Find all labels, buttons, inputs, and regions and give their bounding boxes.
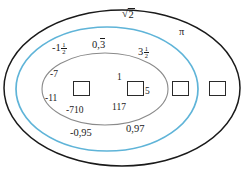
label-pi: π xyxy=(179,27,184,38)
answer-box-2[interactable] xyxy=(127,81,144,96)
outer-ellipse-real-numbers xyxy=(4,10,240,166)
fraction-denominator: 2 xyxy=(61,48,66,56)
mixed-whole-part: -1 xyxy=(52,43,61,54)
middle-ellipse-rational-numbers xyxy=(16,27,198,151)
label-negative-one-and-half: -1 1 2 xyxy=(52,41,67,56)
answer-box-1[interactable] xyxy=(73,81,90,96)
answer-box-3[interactable] xyxy=(172,81,189,96)
fraction-numerator: 1 xyxy=(61,42,66,49)
mixed-whole-part: 3 xyxy=(138,47,143,58)
label-sqrt-two: √2 xyxy=(122,8,135,20)
fraction-numerator: 1 xyxy=(144,46,149,53)
answer-box-4[interactable] xyxy=(209,81,226,96)
decimal-prefix: 0, xyxy=(92,39,100,50)
label-negative-eleven: -11 xyxy=(45,94,57,104)
label-negative-seven: -7 xyxy=(50,70,58,80)
label-negative-zero-point-95: -0,95 xyxy=(70,128,92,139)
label-negative-710: -710 xyxy=(66,106,83,116)
label-five: 5 xyxy=(145,87,150,97)
label-zero-point-three-repeating: 0,3 xyxy=(92,38,105,50)
label-one: 1 xyxy=(117,73,122,83)
label-three-and-half: 3 1 2 xyxy=(138,45,149,60)
label-one-seventeen: 117 xyxy=(112,103,126,113)
fraction-denominator: 2 xyxy=(144,52,149,60)
radical-radicand: 2 xyxy=(128,8,135,20)
number-sets-venn-diagram: √2 π -1 1 2 0,3 3 1 2 -0,95 0,97 -7 -11 … xyxy=(0,0,248,172)
repeating-digit: 3 xyxy=(100,38,105,50)
label-zero-point-97: 0,97 xyxy=(126,124,144,135)
